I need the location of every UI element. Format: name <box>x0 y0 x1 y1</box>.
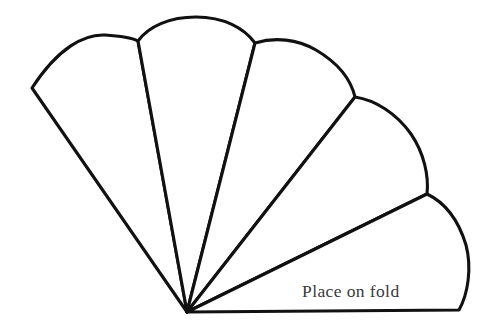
place-on-fold-label: Place on fold <box>302 281 400 301</box>
fan-pattern-diagram: Place on fold <box>0 0 492 333</box>
pattern-canvas: Place on fold <box>0 0 492 333</box>
